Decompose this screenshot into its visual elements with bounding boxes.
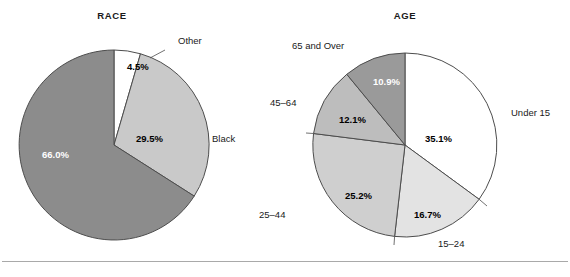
figure-canvas: RACE Other 4.5% Black 29.5% 66.0% AGE xyxy=(0,0,570,277)
race-label-other: Other xyxy=(178,35,202,46)
age-45-64-leader-line xyxy=(306,133,314,134)
age-15-24-leader-line xyxy=(479,199,487,206)
pie-charts-svg xyxy=(0,0,570,277)
age-label-65-over: 65 and Over xyxy=(292,40,344,51)
age-label-45-64: 45–64 xyxy=(270,97,296,108)
age-pct-45-64: 12.1% xyxy=(339,114,366,125)
race-pct-black: 29.5% xyxy=(136,133,163,144)
age-label-under15: Under 15 xyxy=(511,107,550,118)
age-pct-25-44: 25.2% xyxy=(345,190,372,201)
bottom-divider xyxy=(2,261,568,262)
race-label-black: Black xyxy=(212,133,235,144)
age-slice-25-44 xyxy=(313,134,405,237)
age-pct-under15: 35.1% xyxy=(425,133,452,144)
race-pct-other: 4.5% xyxy=(127,61,149,72)
age-label-25-44: 25–44 xyxy=(259,209,285,220)
age-chart-title: AGE xyxy=(394,10,416,21)
age-pct-65-over: 10.9% xyxy=(373,76,400,87)
race-pct-white: 66.0% xyxy=(42,149,69,160)
age-pct-15-24: 16.7% xyxy=(414,209,441,220)
race-other-leader-line xyxy=(150,50,165,58)
age-label-15-24: 15–24 xyxy=(438,238,464,249)
age-25-44-leader-line xyxy=(394,236,395,245)
